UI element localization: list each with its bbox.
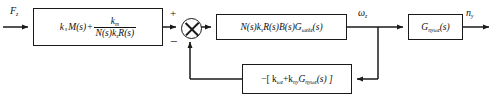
plant-block: N(s)ksR(s)B(s)Gωzδz(s) — [216, 14, 347, 40]
output-transfer-block: Gnyωz(s) — [408, 14, 463, 40]
fraction: km N(s)ksR(s) — [94, 16, 137, 38]
signal-label-omega-z: ωz — [358, 8, 367, 18]
summing-junction — [181, 18, 202, 39]
feedback-block: −[ kωz+knyGnyωz(s) ] — [242, 64, 352, 94]
signal-label-output: ny — [466, 8, 473, 18]
feedforward-block: ksM(s)+ km N(s)ksR(s) — [33, 8, 163, 46]
block-diagram: Fz ksM(s)+ km N(s)ksR(s) + − N(s)ksR(s)B… — [0, 0, 493, 108]
summing-junction-plus-sign: + — [170, 8, 176, 19]
signal-label-input: Fz — [10, 6, 18, 16]
summing-junction-minus-sign: − — [170, 35, 177, 48]
